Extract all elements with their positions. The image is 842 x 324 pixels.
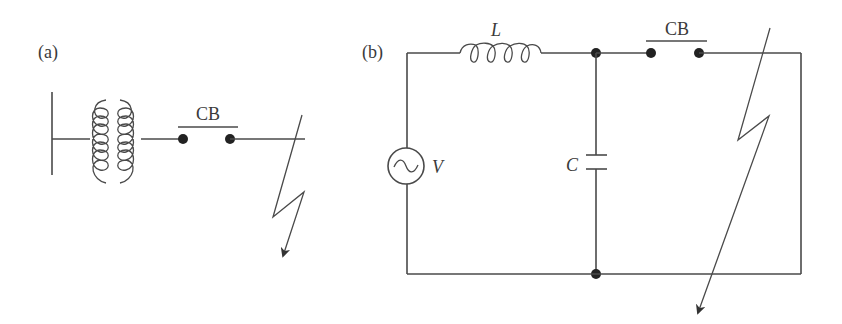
panel-b: (b) V L C CB bbox=[362, 19, 801, 310]
breaker-b-contact-left bbox=[646, 48, 656, 58]
inductor-label: L bbox=[490, 20, 501, 40]
panel-b-label: (b) bbox=[362, 42, 383, 63]
panel-a-label: (a) bbox=[38, 42, 58, 63]
circuit-breaker-b: CB bbox=[646, 19, 707, 58]
transformer-icon bbox=[93, 100, 134, 183]
sine-wave-icon bbox=[394, 160, 418, 172]
fault-lightning-icon-b bbox=[699, 28, 770, 310]
panel-a: (a) CB bbox=[38, 42, 305, 253]
breaker-b-label: CB bbox=[665, 19, 689, 39]
breaker-a-label: CB bbox=[196, 104, 220, 124]
inductor-icon bbox=[460, 43, 541, 62]
circuit-breaker-a: CB bbox=[178, 104, 238, 144]
source-label: V bbox=[432, 157, 445, 177]
breaker-a-contact-left bbox=[178, 134, 188, 144]
capacitor-label: C bbox=[566, 155, 579, 175]
fault-lightning-icon-a bbox=[273, 115, 304, 253]
circuit-diagram: (a) CB (b) V L bbox=[0, 0, 842, 324]
